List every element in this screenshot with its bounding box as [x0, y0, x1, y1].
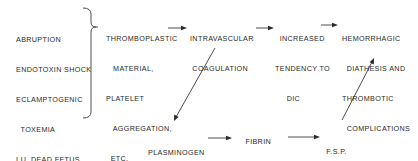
cause-eclamptogenic: ECLAMPTOGENIC [16, 95, 91, 105]
node-line: FIBRIN [236, 137, 284, 147]
node-line: INTRAVASCULAR [190, 34, 254, 44]
plasminogen-activator-node: PLASMINOGEN ACTIVATOR + + [148, 128, 205, 161]
cause-endotoxin-shock: ENDOTOXIN SHOCK [16, 65, 91, 75]
fsp-fdp-node: F.S.P. (F.D.P.) [324, 127, 350, 161]
node-line: MATERIAL, [106, 64, 178, 74]
node-line: F.S.P. [324, 147, 350, 157]
node-line: COMPLICATIONS [342, 124, 410, 134]
hemorrhagic-diathesis-node: HEMORRHAGIC DIATHESIS AND THROMBOTIC COM… [342, 14, 410, 144]
node-line: DIATHESIS AND [342, 64, 410, 74]
node-line: INCREASED [275, 34, 330, 44]
arrow-plasminogen-to-fibrin-lysis [208, 136, 232, 140]
cause-iu-dead-fetus: I.U. DEAD FETUS [16, 155, 91, 161]
cause-abruption: ABRUPTION [16, 35, 91, 45]
node-line: PLATELET [106, 94, 178, 104]
intravascular-coagulation-node: INTRAVASCULAR COAGULATION [190, 14, 254, 84]
arrow-fibrin-lysis-to-fsp [288, 135, 320, 139]
node-line: PLASMINOGEN [148, 148, 205, 158]
node-line: TENDENCY TO [275, 64, 330, 74]
node-line: THROMBOPLASTIC [106, 34, 178, 44]
increased-tendency-node: INCREASED TENDENCY TO DIC [275, 14, 330, 114]
node-line: DIC [275, 94, 330, 104]
node-line: COAGULATION [190, 64, 254, 74]
causes-list: ABRUPTION ENDOTOXIN SHOCK ECLAMPTOGENIC … [16, 15, 91, 161]
fibrin-lysis-node: FIBRIN AND FIBRINOGEN LYSIS [236, 117, 284, 161]
node-line: THROMBOTIC [342, 94, 410, 104]
node-line: HEMORRHAGIC [342, 34, 410, 44]
cause-toxemia: TOXEMIA [16, 125, 91, 135]
arrow-coagulation-to-increased-tendency [256, 26, 274, 30]
